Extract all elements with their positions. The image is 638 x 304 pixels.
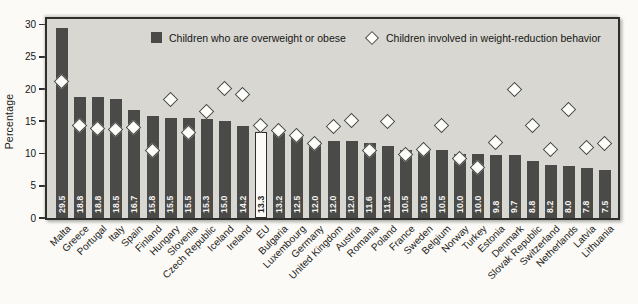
bar-value-turkey: 10.0: [474, 195, 483, 213]
bar-value-italy: 18.5: [112, 195, 121, 213]
bar-value-france: 10.5: [401, 195, 410, 213]
diamond-swatch-icon: [365, 30, 379, 44]
diamond-marker-austria: [343, 112, 359, 128]
bar-value-denmark: 9.7: [510, 200, 519, 213]
bar-value-slovenia: 15.5: [184, 195, 193, 213]
diamond-marker-denmark: [506, 81, 522, 97]
bar-value-portugal: 18.8: [94, 195, 103, 213]
diamond-marker-czech-republic: [199, 103, 215, 119]
y-tick-label: 30: [12, 18, 36, 31]
plot-area: Children who are overweight or obese Chi…: [45, 17, 620, 220]
bar-value-eu: 13.3: [257, 195, 266, 213]
diamond-marker-estonia: [488, 134, 504, 150]
y-tick-label: 25: [12, 50, 36, 63]
y-tick-label: 5: [12, 179, 36, 192]
bar-value-ireland: 14.2: [239, 195, 248, 213]
bar-value-finland: 15.8: [148, 195, 157, 213]
bar-value-spain: 16.7: [130, 195, 139, 213]
diamond-marker-hungary: [162, 92, 178, 108]
bar-value-switzerland: 8.2: [546, 200, 555, 213]
bar-value-czech-republic: 15.3: [202, 195, 211, 213]
diamond-marker-united-kingdom: [325, 119, 341, 135]
bar-malta: [56, 28, 68, 218]
diamond-marker-latvia: [579, 139, 595, 155]
diamond-marker-switzerland: [542, 142, 558, 158]
bar-value-latvia: 7.8: [582, 200, 591, 213]
bar-value-slovak-republic: 8.8: [528, 200, 537, 213]
bar-value-belgium: 10.5: [438, 195, 447, 213]
y-tick-label: 15: [12, 115, 36, 128]
diamond-marker-poland: [380, 114, 396, 130]
bar-value-netherlands: 8.0: [564, 200, 573, 213]
diamond-marker-netherlands: [561, 102, 577, 118]
diamond-marker-belgium: [434, 118, 450, 134]
legend-item-weight-reduction: Children involved in weight-reduction be…: [365, 30, 601, 45]
chart: Percentage 051015202530 Children who are…: [0, 0, 638, 304]
bar-value-sweden: 10.5: [420, 195, 429, 213]
y-tick-label: 10: [12, 147, 36, 160]
y-tick-label: 20: [12, 83, 36, 96]
legend-label-weight-reduction: Children involved in weight-reduction be…: [386, 32, 601, 44]
diamond-marker-ireland: [235, 87, 251, 103]
bar-value-austria: 12.0: [347, 195, 356, 213]
y-tick-label: 0: [12, 212, 36, 225]
bar-value-poland: 11.2: [383, 196, 392, 213]
diamond-marker-lithuania: [597, 136, 613, 152]
diamond-marker-slovak-republic: [524, 117, 540, 133]
bar-value-lithuania: 7.5: [601, 200, 610, 213]
legend-item-overweight: Children who are overweight or obese: [151, 30, 346, 45]
bar-value-romania: 11.6: [365, 196, 374, 213]
bar-value-luxembourg: 12.5: [293, 195, 302, 213]
bar-value-germany: 12.0: [311, 195, 320, 213]
bar-value-hungary: 15.5: [166, 195, 175, 213]
bar-value-malta: 29.5: [58, 195, 67, 213]
bar-value-iceland: 15.0: [220, 195, 229, 213]
bar-value-united-kingdom: 12.0: [329, 195, 338, 213]
bar-value-greece: 18.8: [76, 195, 85, 213]
bar-value-norway: 10.0: [456, 195, 465, 213]
diamond-marker-iceland: [217, 81, 233, 97]
bar-value-estonia: 9.8: [492, 200, 501, 213]
bar-swatch-icon: [151, 32, 162, 43]
legend-label-overweight: Children who are overweight or obese: [169, 32, 346, 44]
bar-value-bulgaria: 13.2: [275, 195, 284, 213]
